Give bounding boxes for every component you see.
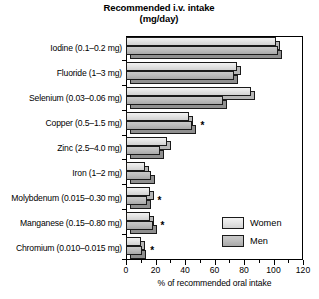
chart-title-line2: (mg/day) (74, 13, 244, 24)
x-axis-tick-labels: 020406080100120 (0, 265, 319, 277)
bar-men (126, 146, 160, 155)
bar-group (126, 160, 303, 185)
x-tick-label: 100 (261, 265, 287, 275)
x-tick-minor (200, 260, 201, 263)
category-label: Chromium (0.010–0.015 mg) (0, 243, 122, 253)
significance-asterisk: * (161, 222, 165, 230)
legend-label: Women (250, 218, 282, 228)
bar-group: * (126, 185, 303, 210)
chart-legend: WomenMen (222, 216, 292, 252)
significance-asterisk: * (150, 247, 154, 255)
x-tick-label: 0 (113, 265, 139, 275)
x-tick-minor (259, 260, 260, 263)
bar-women (126, 62, 237, 71)
x-tick-label: 40 (172, 265, 198, 275)
bar-women (126, 137, 167, 146)
category-label: Molybdenum (0.015–0.30 mg) (0, 193, 122, 203)
significance-asterisk: * (158, 197, 162, 205)
x-tick-minor (141, 260, 142, 263)
bar-chart: Recommended i.v. intake (mg/day) Iodine … (0, 0, 319, 299)
bar-men (126, 46, 278, 55)
bar-group (126, 61, 303, 86)
chart-title: Recommended i.v. intake (mg/day) (74, 2, 244, 24)
legend-item: Women (222, 216, 292, 231)
category-label: Manganese (0.15–0.80 mg) (0, 218, 122, 228)
bar-women (126, 237, 141, 246)
x-tick-minor (288, 260, 289, 263)
bar-women (126, 212, 150, 221)
bar-men (126, 171, 151, 180)
category-label: Iodine (0.1–0.2 mg) (0, 43, 122, 53)
chart-title-line1: Recommended i.v. intake (103, 2, 214, 13)
legend-swatch-men (222, 235, 244, 247)
x-tick-minor (170, 260, 171, 263)
bar-men (126, 196, 147, 205)
bar-women (126, 162, 145, 171)
x-tick-label: 20 (143, 265, 169, 275)
category-label: Copper (0.5–1.5 mg) (0, 118, 122, 128)
x-tick-minor (229, 260, 230, 263)
category-label: Zinc (2.5–4.0 mg) (0, 143, 122, 153)
bar-men (126, 121, 192, 130)
bar-men (126, 246, 142, 255)
bar-women (126, 37, 276, 46)
bar-men (126, 96, 223, 105)
x-tick-label: 80 (231, 265, 257, 275)
legend-item: Men (222, 234, 292, 249)
x-tick-label: 120 (290, 265, 316, 275)
bar-women (126, 112, 189, 121)
x-tick-label: 60 (202, 265, 228, 275)
bar-group: * (126, 111, 303, 136)
bar-men (126, 221, 153, 230)
legend-swatch-women (222, 217, 244, 229)
bar-group (126, 86, 303, 111)
category-axis-labels: Iodine (0.1–0.2 mg)Fluoride (1–3 mg)Sele… (0, 36, 122, 260)
x-axis-title: % of recommended oral intake (126, 278, 303, 288)
bar-group (126, 136, 303, 161)
bar-group (126, 36, 303, 61)
category-label: Iron (1–2 mg) (0, 168, 122, 178)
bar-women (126, 87, 251, 96)
legend-label: Men (250, 236, 268, 246)
bar-men (126, 71, 234, 80)
bar-women (126, 187, 150, 196)
significance-asterisk: * (200, 122, 204, 130)
category-label: Fluoride (1–3 mg) (0, 68, 122, 78)
category-label: Selenium (0.03–0.06 mg) (0, 93, 122, 103)
